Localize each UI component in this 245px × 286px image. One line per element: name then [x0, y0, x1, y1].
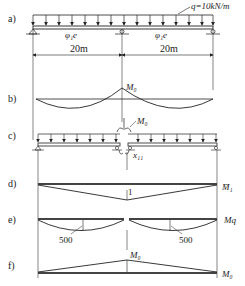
span-left-label: 20m	[70, 43, 88, 54]
panel-b: b) M₀	[8, 82, 213, 108]
beam-a	[33, 26, 213, 29]
panel-c-label: c)	[8, 130, 16, 142]
panel-f: f) M₀ M₀	[8, 250, 233, 279]
support-moment-label: M₀	[221, 269, 233, 279]
stiffness-right: φ₁e	[155, 30, 167, 40]
moment-label-b: M₀	[125, 82, 137, 92]
beam-d	[38, 183, 217, 185]
load-moment-curve-left	[38, 220, 124, 231]
distributed-load-arrows	[33, 15, 213, 25]
load-moment-curve-right	[129, 220, 217, 231]
panel-f-label: f)	[8, 260, 15, 272]
panel-d: d) 1 M̄₁	[8, 178, 233, 200]
moment-label-c: M₀	[136, 116, 148, 126]
beam-f	[38, 272, 217, 274]
support-moment-diagram	[38, 260, 217, 272]
unknown-label-c: x₁₁	[132, 150, 143, 160]
panel-a-label: a)	[8, 13, 16, 25]
panel-a: a) q=10kN/m	[8, 1, 230, 55]
panel-e-label: e)	[8, 214, 16, 226]
moment-label-f: M₀	[129, 250, 141, 260]
continuous-beam-diagram: a) q=10kN/m	[0, 0, 245, 286]
value-left: 500	[59, 235, 73, 245]
panel-e: e) 500 500 Mq	[8, 214, 236, 245]
load-moment-label: Mq	[223, 215, 236, 225]
stiffness-left: φ₁e	[65, 30, 77, 40]
unit-moment-label: M̄₁	[221, 182, 233, 192]
moment-curve-b	[36, 88, 213, 108]
panel-d-label: d)	[8, 178, 16, 190]
unit-value: 1	[128, 187, 133, 197]
load-label: q=10kN/m	[191, 1, 230, 11]
panel-c: c) M₀ x₁₁	[8, 116, 221, 160]
value-right: 500	[179, 235, 193, 245]
span-right-label: 20m	[160, 43, 178, 54]
panel-b-label: b)	[8, 93, 16, 105]
